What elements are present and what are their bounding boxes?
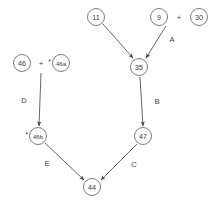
edges-layer bbox=[39, 24, 166, 180]
plus-operator-icon: + bbox=[39, 59, 44, 68]
edge-label-a: A bbox=[169, 35, 175, 44]
graph-node[interactable]: 9 bbox=[151, 9, 168, 26]
graph-diagram: ABDEC ++ 11930354646a*46b*4744 bbox=[0, 0, 214, 203]
graph-node[interactable]: 30 bbox=[191, 9, 208, 26]
graph-node[interactable]: 35 bbox=[131, 59, 148, 76]
edge-label-e: E bbox=[44, 159, 49, 168]
node-label: 46a bbox=[56, 60, 67, 67]
node-label: 44 bbox=[88, 183, 96, 192]
asterisk-icon: * bbox=[25, 131, 28, 138]
node-label: 47 bbox=[139, 132, 147, 141]
nodes-layer: 11930354646a*46b*4744 bbox=[14, 9, 208, 196]
graph-node[interactable]: 46b* bbox=[25, 128, 46, 145]
node-label: 9 bbox=[157, 13, 161, 22]
graph-node[interactable]: 44 bbox=[84, 179, 101, 196]
node-label: 46 bbox=[18, 59, 26, 68]
graph-edge bbox=[146, 26, 166, 58]
node-label: 30 bbox=[195, 13, 203, 22]
graph-edge bbox=[45, 143, 84, 180]
plus-operator-icon: + bbox=[177, 13, 182, 22]
edge-labels-layer: ABDEC bbox=[21, 35, 175, 169]
node-label: 46b bbox=[33, 133, 44, 140]
graph-node[interactable]: 11 bbox=[88, 9, 105, 26]
edge-label-c: C bbox=[131, 160, 137, 169]
graph-edge bbox=[140, 77, 143, 126]
edge-label-d: D bbox=[21, 96, 27, 105]
graph-edge bbox=[103, 24, 133, 58]
node-label: 35 bbox=[135, 63, 143, 72]
asterisk-icon: * bbox=[48, 58, 51, 65]
graph-node[interactable]: 46a* bbox=[48, 55, 69, 72]
graph-edge bbox=[39, 73, 41, 126]
node-label: 11 bbox=[92, 13, 99, 22]
graph-node[interactable]: 47 bbox=[135, 128, 152, 145]
edge-label-b: B bbox=[154, 97, 159, 106]
graph-node[interactable]: 46 bbox=[14, 55, 31, 72]
diagram-canvas: ABDEC ++ 11930354646a*46b*4744 bbox=[0, 0, 214, 203]
